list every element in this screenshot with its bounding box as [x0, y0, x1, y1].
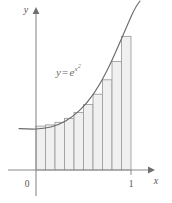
rect-bar: [112, 61, 122, 170]
equation-exponent-power: 2: [78, 63, 81, 69]
rect-bar: [36, 126, 46, 170]
rect-bar: [55, 122, 65, 170]
rect-bar: [65, 118, 75, 170]
figure-canvas: y x 0 1: [0, 0, 172, 203]
equation-exponent: x2: [75, 65, 81, 73]
equation-operator: =: [61, 66, 69, 78]
midpoint-rectangles: [36, 36, 131, 170]
y-axis-label: y: [23, 4, 29, 15]
x-axis-arrowhead: [148, 167, 155, 174]
rect-bar: [122, 36, 132, 170]
rect-bar: [84, 105, 94, 170]
rect-bar: [93, 94, 103, 170]
y-axis-arrowhead: [33, 7, 40, 14]
x-tick-label-1: 1: [129, 179, 134, 189]
equation-annotation: y=ex2: [56, 63, 81, 78]
midpoint-rule-figure: y x 0 1 y=ex2: [0, 0, 172, 203]
rect-bar: [74, 113, 84, 171]
rect-bar: [46, 125, 56, 170]
origin-label: 0: [25, 179, 30, 189]
x-axis-label: x: [153, 175, 159, 186]
rect-bar: [103, 80, 113, 170]
